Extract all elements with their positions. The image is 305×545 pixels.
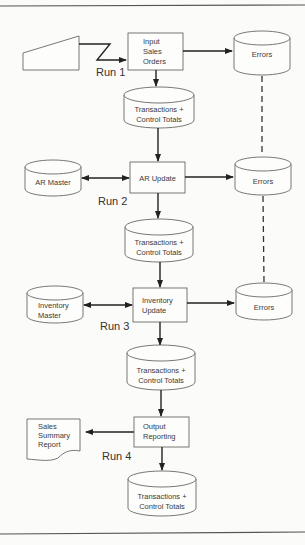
storage-label: Control Totals [136,115,182,124]
inventory-master-storage: Inventory Master [27,286,83,323]
process-label-line: Sales [143,47,162,56]
storage-label: Transactions + [136,366,186,375]
document-label: Report [38,440,61,449]
storage-label: Transactions + [134,105,184,114]
process-label-line: Update [142,306,166,315]
storage-label: Inventory [38,301,69,310]
storage-label: Transactions + [137,492,187,501]
run-label: Run 4 [102,450,131,462]
storage-label: Errors [252,50,273,59]
run-label: Run 2 [98,195,127,207]
transactions-storage-4: Transactions + Control Totals [128,471,196,516]
storage-label: Transactions + [134,238,184,247]
communication-link-arrow [79,44,126,60]
document-label: Summary [38,431,70,440]
document-label: Sales [38,422,57,431]
process-label-line: Orders [143,57,166,66]
process-label-line: AR Update [139,174,176,183]
errors-dashed-link [263,196,264,282]
process-label-line: Inventory [142,296,173,305]
batch-processing-flowchart: Input Sales Orders Run 1 Errors Transact… [0,0,305,545]
storage-label: Errors [254,303,275,312]
transactions-storage-1: Transactions + Control Totals [124,87,194,128]
storage-label: Master [38,311,61,320]
process-input-sales-orders: Input Sales Orders [128,33,183,70]
card-reader-input-icon [23,36,79,70]
process-inventory-update: Inventory Update [133,288,187,322]
storage-label: Errors [253,177,274,186]
process-label-line: Input [143,37,161,46]
process-ar-update: AR Update [130,162,185,193]
ar-master-storage: AR Master [25,160,81,196]
process-label-line: Reporting [143,432,176,441]
bottom-border [0,532,305,534]
process-output-reporting: Output Reporting [134,417,189,447]
errors-storage-1: Errors [234,31,290,75]
errors-storage-3: Errors [236,283,292,320]
errors-storage-2: Errors [235,157,291,195]
storage-label: AR Master [35,178,71,187]
sales-summary-report-document: Sales Summary Report [27,419,80,460]
run-label: Run 3 [100,320,129,332]
transactions-storage-3: Transactions + Control Totals [127,345,195,390]
run-label: Run 1 [96,66,125,78]
transactions-storage-2: Transactions + Control Totals [125,219,193,262]
storage-label: Control Totals [139,502,185,511]
process-label-line: Output [143,422,166,431]
storage-label: Control Totals [138,376,184,385]
top-border [0,5,305,6]
storage-label: Control Totals [136,248,182,257]
